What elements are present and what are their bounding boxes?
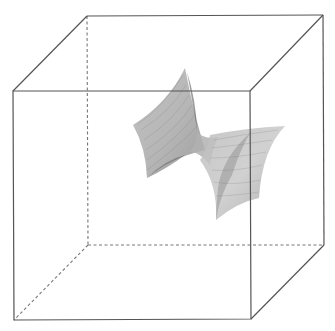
hidden-edge-bottom-left-depth — [14, 245, 88, 320]
figure-canvas — [0, 0, 335, 331]
surface-right-wing — [200, 126, 285, 220]
edge-top-right-depth — [250, 15, 323, 91]
edge-top-left-depth — [13, 16, 87, 91]
edge-back-top — [87, 15, 323, 16]
edge-front-face — [13, 91, 251, 320]
hidden-edge-back-left-vertical — [87, 16, 88, 245]
edge-bottom-right-depth — [251, 245, 324, 319]
edge-back-right — [323, 15, 324, 245]
cube-surface-figure — [0, 0, 335, 331]
